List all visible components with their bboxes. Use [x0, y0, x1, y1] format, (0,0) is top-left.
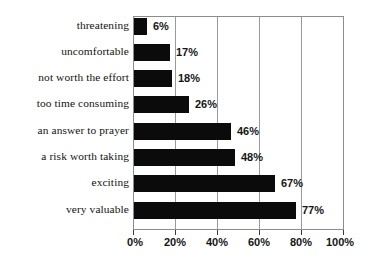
category-label: very valuable	[0, 203, 129, 216]
plot-area: 6% 17% 18% 26% 46% 48% 67% 77%	[133, 16, 344, 230]
category-axis-labels: threatening uncomfortable not worth the …	[0, 16, 129, 230]
bar-value-label: 46%	[237, 123, 259, 140]
axis-tick	[301, 230, 302, 235]
axis-tick	[175, 230, 176, 235]
category-label: not worth the effort	[0, 71, 129, 84]
bar-value-label: 26%	[195, 96, 217, 113]
axis-tick	[133, 230, 134, 235]
category-label: threatening	[0, 19, 129, 32]
bar	[134, 96, 189, 113]
bar	[134, 18, 147, 35]
bar-value-label: 48%	[241, 149, 263, 166]
bar	[134, 70, 172, 87]
category-label: exciting	[0, 176, 129, 189]
category-label: too time consuming	[0, 97, 129, 110]
bar	[134, 123, 231, 140]
bar	[134, 44, 170, 61]
bar-value-label: 77%	[302, 202, 324, 219]
bar-value-label: 6%	[153, 18, 169, 35]
bar-value-label: 18%	[178, 70, 200, 87]
axis-tick	[259, 230, 260, 235]
bar	[134, 149, 235, 166]
x-axis: 0% 20% 40% 60% 80% 100%	[133, 230, 344, 264]
bar-chart: threatening uncomfortable not worth the …	[0, 0, 372, 264]
gridline	[301, 17, 302, 229]
axis-tick-label: 100%	[326, 236, 354, 249]
axis-tick-label: 80%	[290, 236, 312, 249]
bar-value-label: 67%	[281, 175, 303, 192]
bar	[134, 202, 296, 219]
axis-tick-label: 20%	[164, 236, 186, 249]
bar-value-label: 17%	[176, 44, 198, 61]
axis-tick-label: 40%	[206, 236, 228, 249]
category-label: a risk worth taking	[0, 150, 129, 163]
category-label: an answer to prayer	[0, 124, 129, 137]
axis-tick	[217, 230, 218, 235]
axis-tick	[343, 230, 344, 235]
axis-tick-label: 0%	[127, 236, 143, 249]
gridline	[259, 17, 260, 229]
axis-tick-label: 60%	[248, 236, 270, 249]
category-label: uncomfortable	[0, 45, 129, 58]
bar	[134, 175, 275, 192]
